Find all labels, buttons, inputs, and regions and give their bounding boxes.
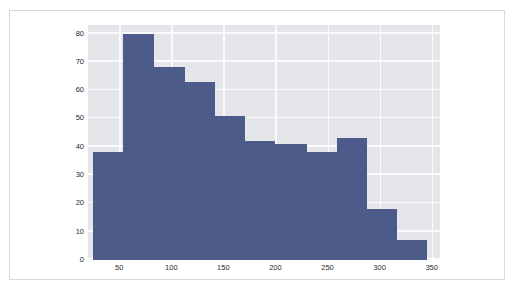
y-tick-label: 30 <box>76 171 84 179</box>
histogram-bar <box>337 138 367 260</box>
y-tick-label: 60 <box>76 86 84 94</box>
histogram-chart: 01020304050607080 50100150200250300350 <box>10 11 504 279</box>
x-tick-label: 350 <box>425 264 438 272</box>
y-tick-label: 50 <box>76 114 84 122</box>
y-tick-label: 40 <box>76 143 84 151</box>
x-tick-label: 100 <box>165 264 178 272</box>
histogram-bar <box>215 116 245 260</box>
histogram-bar <box>93 152 123 260</box>
histogram-bar <box>185 82 215 260</box>
x-tick-label: 200 <box>269 264 282 272</box>
histogram-bar <box>154 67 185 260</box>
y-axis: 01020304050607080 <box>66 25 84 260</box>
gridline-x-350 <box>432 25 434 260</box>
histogram-bar <box>397 240 427 260</box>
y-tick-label: 10 <box>76 228 84 236</box>
histogram-bar <box>123 34 153 261</box>
histogram-bar <box>245 141 275 260</box>
x-tick-label: 250 <box>321 264 334 272</box>
figure-card: 01020304050607080 50100150200250300350 <box>9 10 505 280</box>
histogram-bar <box>275 144 306 260</box>
x-tick-label: 300 <box>373 264 386 272</box>
plot-area <box>88 25 440 260</box>
histogram-bar <box>367 209 397 260</box>
x-tick-label: 150 <box>217 264 230 272</box>
x-axis: 50100150200250300350 <box>88 264 440 276</box>
y-tick-label: 80 <box>76 30 84 38</box>
y-tick-label: 20 <box>76 199 84 207</box>
y-tick-label: 70 <box>76 58 84 66</box>
histogram-bar <box>307 152 337 260</box>
y-tick-label: 0 <box>80 256 84 264</box>
x-tick-label: 50 <box>115 264 123 272</box>
